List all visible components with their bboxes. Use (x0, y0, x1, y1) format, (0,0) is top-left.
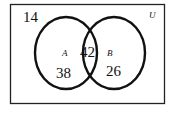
set-b-only-count: 26 (106, 64, 121, 79)
set-a-only-count: 38 (56, 66, 71, 81)
intersection-count: 42 (80, 45, 95, 60)
set-b-label: B (107, 49, 113, 58)
universe-label: U (149, 11, 156, 20)
outside-count: 14 (23, 10, 38, 25)
set-a-label: A (62, 49, 68, 58)
